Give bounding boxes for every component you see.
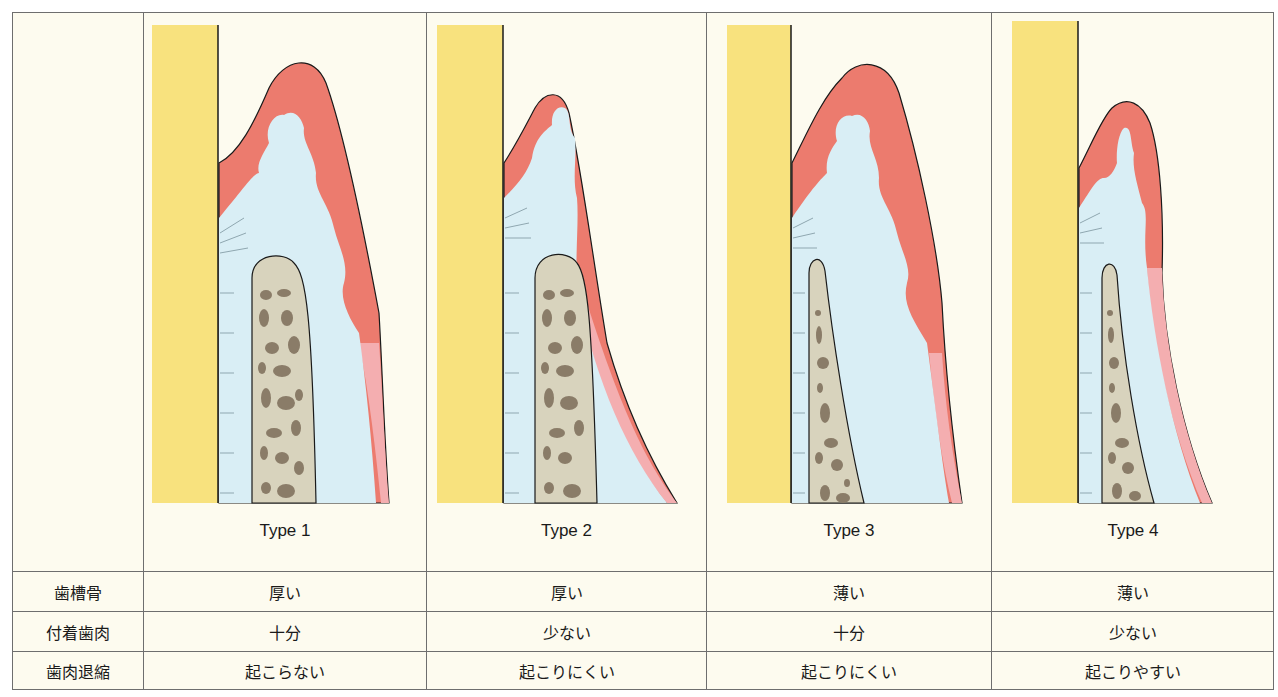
panel-type-2: Type 2: [427, 13, 706, 571]
row-header-gingival-recession: 歯肉退縮: [13, 652, 143, 690]
type-2-illustration: [427, 13, 706, 513]
table-cell: 少ない: [427, 612, 706, 651]
table-cell: 薄い: [992, 572, 1274, 611]
row-header-alveolar-bone: 歯槽骨: [13, 572, 143, 611]
table-cell: 十分: [144, 612, 426, 651]
row-header-attached-gingiva: 付着歯肉: [13, 612, 143, 651]
table-cell: 起こらない: [144, 652, 426, 690]
panel-type-4: Type 4: [992, 13, 1274, 571]
type-label: Type 4: [992, 521, 1274, 541]
panel-type-1: Type 1: [144, 13, 426, 571]
table-cell: 起こりにくい: [427, 652, 706, 690]
type-3-illustration: [707, 13, 991, 513]
table-cell: 起こりやすい: [992, 652, 1274, 690]
periodontal-biotype-table: Type 1: [12, 12, 1274, 690]
panel-type-3: Type 3: [707, 13, 991, 571]
type-label: Type 2: [427, 521, 706, 541]
type-1-illustration: [144, 13, 426, 513]
table-cell: 十分: [707, 612, 991, 651]
type-label: Type 1: [144, 521, 426, 541]
type-4-illustration: [992, 13, 1274, 513]
table-cell: 厚い: [427, 572, 706, 611]
table-cell: 少ない: [992, 612, 1274, 651]
table-cell: 厚い: [144, 572, 426, 611]
table-cell: 薄い: [707, 572, 991, 611]
table-cell: 起こりにくい: [707, 652, 991, 690]
type-label: Type 3: [707, 521, 991, 541]
